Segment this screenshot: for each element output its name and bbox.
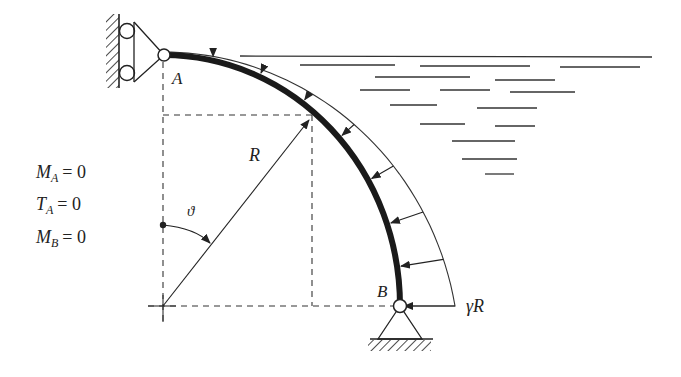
radius-line [163, 120, 309, 306]
boundary-conditions: MA= 0 TA= 0 MB= 0 [35, 162, 86, 250]
water-surface [240, 56, 652, 174]
label-a: A [171, 69, 183, 88]
pressure-arrow [401, 259, 443, 266]
label-angle: ϑ [187, 203, 196, 219]
pressure-arrow [342, 125, 354, 136]
angle-arrow [163, 225, 210, 243]
pressure-arrow [372, 166, 394, 179]
beam-diagram: A B R ϑ γR MA= 0 TA= 0 MB= 0 [0, 0, 681, 377]
pressure-arrows [213, 56, 455, 306]
label-load-max: γR [466, 296, 484, 316]
pressure-arrow [305, 93, 310, 100]
curved-beam [164, 55, 400, 306]
label-radius: R [248, 145, 260, 165]
wall-support-a [106, 14, 164, 88]
condition-ta: TA= 0 [36, 194, 81, 217]
pressure-arrow [261, 70, 262, 73]
label-b: B [377, 282, 388, 301]
hinge-b [394, 300, 407, 313]
condition-ma: MA= 0 [35, 162, 86, 185]
hinge-a [158, 49, 170, 61]
condition-mb: MB= 0 [35, 227, 86, 250]
construction-lines [148, 62, 393, 322]
pressure-arrow [391, 212, 423, 223]
load-envelope [163, 52, 455, 306]
